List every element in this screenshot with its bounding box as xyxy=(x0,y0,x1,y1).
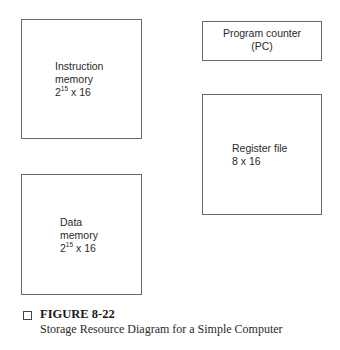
size-base: 2 xyxy=(55,86,61,98)
instruction-memory-label: Instruction memory 215 x 16 xyxy=(55,60,103,99)
data-memory-label: Data memory 215 x 16 xyxy=(60,216,98,255)
data-memory-size: 215 x 16 xyxy=(60,242,98,255)
size-width: x 16 xyxy=(68,86,91,98)
instruction-memory-size: 215 x 16 xyxy=(55,86,103,99)
caption-square-icon xyxy=(23,311,32,320)
register-file-size: 8 x 16 xyxy=(232,155,287,168)
size-exponent: 15 xyxy=(66,241,73,248)
data-memory-title-1: Data xyxy=(60,216,98,229)
figure-subtitle: Storage Resource Diagram for a Simple Co… xyxy=(40,322,283,337)
program-counter-title: Program counter xyxy=(202,27,322,40)
size-base: 2 xyxy=(60,242,66,254)
size-exponent: 15 xyxy=(61,85,68,92)
instruction-memory-title-1: Instruction xyxy=(55,60,103,73)
register-file-title: Register file xyxy=(232,142,287,155)
register-file-label: Register file 8 x 16 xyxy=(232,142,287,168)
program-counter-abbrev: (PC) xyxy=(202,40,322,53)
size-width: x 16 xyxy=(73,242,96,254)
program-counter-label: Program counter (PC) xyxy=(202,27,322,53)
figure-title: FIGURE 8-22 xyxy=(40,307,115,322)
